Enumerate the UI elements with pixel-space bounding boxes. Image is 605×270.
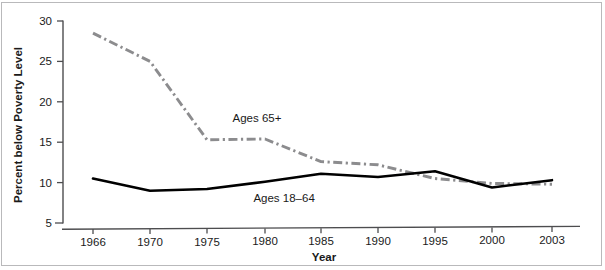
poverty-line-chart-figure: 30 25 20 15 10 5 Percent below Poverty L… <box>0 0 605 270</box>
y-tick-label-10: 10 <box>39 177 52 189</box>
x-tick-label-1970: 1970 <box>137 236 163 248</box>
x-tick-label-1980: 1980 <box>252 235 278 247</box>
x-tick-label-1966: 1966 <box>80 236 106 248</box>
y-tick-label-25: 25 <box>39 55 52 67</box>
y-axis-title: Percent below Poverty Level <box>12 47 24 203</box>
y-tick-label-15: 15 <box>39 136 52 148</box>
series-line-ages-18-64 <box>93 171 552 190</box>
y-axis: 30 25 20 15 10 5 Percent below Poverty L… <box>12 15 63 229</box>
x-axis-title: Year <box>312 251 337 263</box>
y-tick-label-5: 5 <box>46 217 52 229</box>
x-tick-label-2003: 2003 <box>539 234 565 246</box>
plot-area <box>93 33 552 191</box>
x-axis: 1966 1970 1975 1980 1985 1990 1995 2000 … <box>62 226 580 263</box>
annotation-ages-18-64: Ages 18–64 <box>253 192 315 204</box>
series-annotations: Ages 65+ Ages 18–64 <box>233 112 316 204</box>
x-tick-label-1995: 1995 <box>422 235 448 247</box>
y-tick-label-30: 30 <box>39 15 52 27</box>
series-line-ages-65-plus <box>93 33 552 184</box>
annotation-ages-65-plus: Ages 65+ <box>233 112 282 124</box>
chart-canvas: 30 25 20 15 10 5 Percent below Poverty L… <box>0 0 605 270</box>
x-tick-label-2000: 2000 <box>479 234 505 246</box>
x-tick-label-1990: 1990 <box>365 235 391 247</box>
y-tick-label-20: 20 <box>39 96 52 108</box>
x-tick-label-1985: 1985 <box>308 235 334 247</box>
x-tick-label-1975: 1975 <box>194 236 220 248</box>
